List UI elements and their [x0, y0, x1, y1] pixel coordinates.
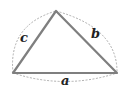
triangle [13, 11, 117, 73]
side-label-a: a [61, 73, 69, 88]
side-label-c: c [20, 30, 28, 45]
triangle-diagram: a b c [0, 0, 125, 88]
side-label-b: b [91, 26, 100, 41]
